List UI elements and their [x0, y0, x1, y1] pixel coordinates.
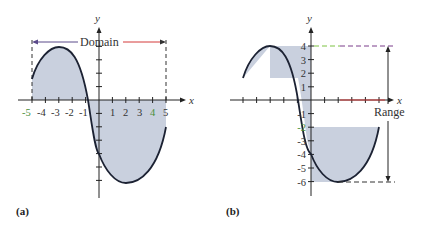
- tick-label: 4: [301, 41, 307, 52]
- tick-label: -3: [297, 136, 306, 147]
- tick-label: -1: [79, 107, 88, 118]
- tick-label: 2: [123, 107, 128, 118]
- tick-label: 1: [110, 107, 115, 118]
- caption-a: (a): [16, 205, 29, 218]
- tick-label: -6: [297, 177, 306, 188]
- panel-a: Domain y x -5 -4 -3 -2 -1 1 2 3 4 5 (a): [16, 12, 194, 218]
- arrowhead-right-icon: [160, 40, 166, 45]
- arrowhead-up-icon: [386, 46, 391, 52]
- tick-label: -1: [297, 109, 306, 120]
- tick-label: -5: [297, 163, 306, 174]
- arrowhead-left-icon: [32, 40, 38, 45]
- tick-label: -2: [297, 122, 306, 133]
- x-axis-arrow-icon: [180, 98, 186, 103]
- tick-label: -3: [51, 107, 60, 118]
- caption-b: (b): [226, 205, 240, 218]
- panel-b: Range y x 4 3 2 1 -1 -2 -3 -4 -5 -6 (b): [226, 12, 405, 218]
- y-axis-arrow-icon: [97, 27, 102, 33]
- tick-label: 2: [301, 68, 306, 79]
- tick-label: 1: [301, 82, 306, 93]
- shaded-region-a: [32, 47, 88, 100]
- tick-label: 5: [163, 107, 168, 118]
- tick-label: -4: [37, 107, 46, 118]
- tick-label: 4: [150, 107, 156, 118]
- tick-label: 3: [301, 55, 306, 66]
- range-label: Range: [374, 105, 405, 119]
- figure: Domain y x -5 -4 -3 -2 -1 1 2 3 4 5 (a): [0, 0, 423, 226]
- tick-label: -5: [22, 107, 31, 118]
- y-axis-label-a: y: [94, 12, 100, 24]
- x-axis-label-a: x: [188, 94, 194, 106]
- tick-label: 3: [137, 107, 142, 118]
- domain-label: Domain: [80, 35, 119, 49]
- arrowhead-down-icon: [386, 176, 391, 182]
- x-axis-arrow-icon: [388, 98, 394, 103]
- y-axis-label-b: y: [306, 12, 312, 24]
- x-axis-label-b: x: [396, 94, 402, 106]
- y-axis-arrow-icon: [309, 27, 314, 33]
- tick-label: -4: [297, 149, 306, 160]
- tick-label: -2: [65, 107, 74, 118]
